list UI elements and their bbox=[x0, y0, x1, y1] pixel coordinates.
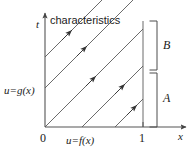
initial-condition-label: u=f(x) bbox=[66, 135, 94, 146]
arrowhead-line-1 bbox=[86, 76, 96, 86]
arrowhead-line-5 bbox=[62, 30, 72, 40]
boundary-condition-label: u=g(x) bbox=[4, 85, 35, 96]
region-label-A: A bbox=[163, 92, 170, 104]
arrowhead-line-4 bbox=[77, 46, 87, 56]
region-label-B: B bbox=[163, 39, 170, 51]
x-axis-origin-label: 0 bbox=[40, 132, 46, 144]
t-axis-label: t bbox=[36, 19, 39, 30]
arrowhead-line-2 bbox=[115, 84, 125, 94]
characteristic-line-2 bbox=[82, 66, 143, 127]
characteristics-figure: characteristics t x u=g(x) u=f(x) 0 1 A … bbox=[0, 0, 193, 157]
x-axis-one-label: 1 bbox=[139, 132, 145, 144]
characteristic-line-5 bbox=[45, 0, 108, 57]
brace-B bbox=[150, 21, 157, 70]
arrowhead-line-3 bbox=[127, 105, 137, 115]
brace-A bbox=[150, 73, 157, 127]
x-axis-label: x bbox=[178, 131, 183, 142]
region-braces bbox=[150, 21, 157, 127]
characteristics-label: characteristics bbox=[50, 15, 120, 26]
